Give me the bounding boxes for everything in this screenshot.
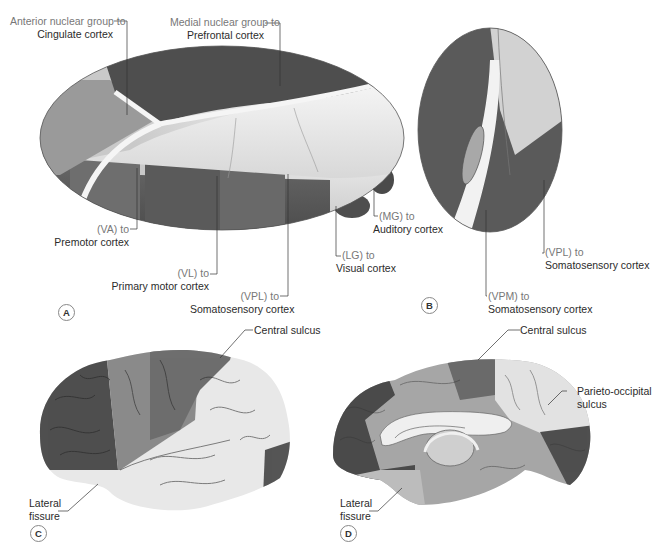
label-line2: Somatosensory cortex: [488, 303, 592, 316]
thalamus-3d: [30, 40, 410, 240]
label-anterior-nuclear-group: Anterior nuclear group to Cingulate cort…: [10, 15, 113, 41]
thalamus-cross-section: [410, 20, 570, 240]
panel-letter-c: C: [30, 525, 47, 542]
label-line2: Somatosensory cortex: [545, 259, 649, 272]
label-vpm: (VPM) to Somatosensory cortex: [488, 290, 592, 316]
label-line1: (VPL) to: [190, 290, 279, 303]
label-line1: Lateral: [29, 497, 61, 510]
label-line1: Anterior nuclear group to: [10, 15, 113, 28]
label-va: (VA) to Premotor cortex: [40, 223, 129, 249]
label-lateral-fissure-c: Lateral fissure: [29, 497, 61, 523]
label-line1: Central sulcus: [254, 324, 321, 337]
label-line1: Lateral: [340, 497, 372, 510]
panel-letter-d: D: [340, 525, 357, 542]
label-line2: Cingulate cortex: [10, 28, 113, 41]
label-line2: Auditory cortex: [373, 223, 443, 236]
label-lg: (LG) to Visual cortex: [342, 249, 396, 275]
diagram-art: [0, 0, 663, 559]
label-line2: Premotor cortex: [40, 236, 129, 249]
label-line2: sulcus: [577, 398, 652, 411]
label-line2: fissure: [29, 510, 61, 523]
label-line1: (LG) to: [342, 249, 396, 262]
label-central-sulcus-c: Central sulcus: [254, 324, 321, 337]
label-line1: (VPM) to: [488, 290, 592, 303]
label-line1: Medial nuclear group to: [170, 16, 264, 29]
label-vpl-a: (VPL) to Somatosensory cortex: [190, 290, 279, 316]
label-line1: Parieto-occipital: [577, 385, 652, 398]
label-line1: (VPL) to: [545, 246, 649, 259]
label-line2: Somatosensory cortex: [190, 303, 279, 316]
label-parieto-occipital-sulcus: Parieto-occipital sulcus: [577, 385, 652, 411]
panel-letter-a: A: [58, 304, 75, 321]
label-line2: Prefrontal cortex: [170, 29, 264, 42]
label-lateral-fissure-d: Lateral fissure: [340, 497, 372, 523]
label-line1: (VA) to: [40, 223, 129, 236]
label-central-sulcus-d: Central sulcus: [520, 324, 587, 337]
label-medial-nuclear-group: Medial nuclear group to Prefrontal corte…: [170, 16, 264, 42]
label-line1: (MG) to: [379, 210, 443, 223]
label-line1: Central sulcus: [520, 324, 587, 337]
lateral-brain: [35, 340, 295, 520]
label-line1: (VL) to: [110, 267, 209, 280]
panel-letter-b: B: [421, 297, 438, 314]
medial-brain: [330, 355, 595, 510]
label-line2: Visual cortex: [336, 262, 396, 275]
label-mg: (MG) to Auditory cortex: [379, 210, 443, 236]
label-line2: fissure: [340, 510, 372, 523]
label-vpl-b: (VPL) to Somatosensory cortex: [545, 246, 649, 272]
